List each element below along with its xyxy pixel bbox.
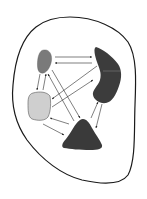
node-left-square <box>28 92 51 120</box>
ecosystem-diagram <box>0 0 147 199</box>
